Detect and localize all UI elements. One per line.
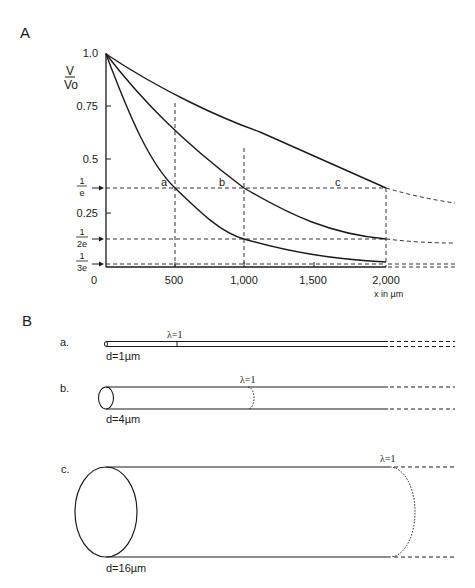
x-tick-label-0: 0 — [91, 274, 97, 286]
y-tick-label-025: 0.25 — [77, 207, 98, 219]
y-tick-label-075: 0.75 — [77, 100, 98, 112]
svg-text:c.: c. — [61, 463, 70, 475]
marker-1-over-3e: 1 3e — [76, 251, 104, 273]
panel-a-label: A — [20, 24, 30, 41]
lambda-label-b: λ=1 — [240, 374, 256, 385]
x-axis-label: x in µm — [374, 289, 403, 299]
curve-label-b: b — [219, 176, 225, 188]
lambda-label-a: λ=1 — [167, 329, 183, 340]
y-tick-label-05: 0.5 — [83, 153, 98, 165]
diameter-label-a: d=1µm — [106, 350, 140, 362]
y-axis-label-denominator: Vo — [64, 78, 78, 92]
arrow-right-icon — [99, 237, 104, 242]
panel-b-label: B — [22, 312, 32, 329]
curve-label-a: a — [161, 176, 168, 188]
y-tick-label-1: 1.0 — [83, 47, 98, 59]
curve-c-extension — [386, 188, 455, 203]
cylinder-a: a. λ=1 d=1µm — [60, 329, 455, 362]
lambda-label-c: λ=1 — [380, 453, 396, 464]
cylinder-c: c. λ=1 d=16µm — [61, 453, 455, 574]
svg-text:e: e — [79, 188, 84, 198]
svg-text:1: 1 — [79, 251, 84, 261]
y-axis-label-numerator: V — [66, 64, 74, 78]
curve-b — [106, 54, 386, 239]
curve-c — [106, 54, 386, 188]
curve-label-c: c — [335, 176, 341, 188]
curve-a — [106, 54, 386, 262]
svg-text:1: 1 — [79, 227, 84, 237]
svg-text:a.: a. — [60, 336, 69, 348]
marker-1-over-e: 1 e — [77, 176, 104, 198]
arrow-right-icon — [99, 186, 104, 191]
svg-text:2e: 2e — [77, 239, 87, 249]
svg-text:3e: 3e — [77, 263, 87, 273]
cylinder-b: b. λ=1 d=4µm — [60, 374, 455, 425]
svg-text:b.: b. — [60, 382, 69, 394]
decay-curves — [106, 54, 386, 262]
x-tick-label-1000: 1,000 — [230, 274, 258, 286]
x-tick-label-2000: 2,000 — [372, 274, 400, 286]
x-tick-label-1500: 1,500 — [299, 274, 327, 286]
diameter-label-b: d=4µm — [106, 413, 140, 425]
diameter-label-c: d=16µm — [106, 562, 146, 574]
figure-canvas: A V Vo 1.0 0.75 0.5 0.25 1 e 1 2e 1 3e 0… — [0, 0, 475, 588]
marker-1-over-2e: 1 2e — [76, 227, 104, 249]
arrow-right-icon — [99, 262, 104, 267]
reference-lines — [106, 103, 455, 267]
curve-b-extension — [386, 239, 455, 243]
x-tick-label-500: 500 — [165, 274, 183, 286]
svg-text:1: 1 — [79, 176, 84, 186]
